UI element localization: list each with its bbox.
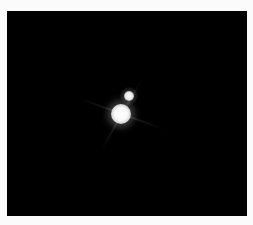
secondary-source (124, 91, 134, 101)
image-frame (7, 11, 247, 216)
primary-source (111, 104, 131, 124)
